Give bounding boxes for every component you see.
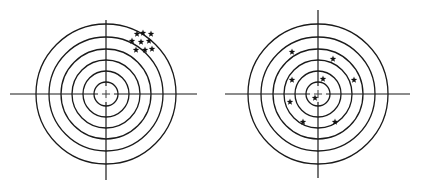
shot-star-icon [149, 46, 155, 52]
targets-diagram [0, 0, 421, 186]
shot-star-icon [351, 77, 357, 83]
shot-star-icon [320, 76, 326, 82]
shot-star-icon [146, 38, 152, 44]
shot-star-icon [287, 99, 293, 105]
shot-star-icon [134, 31, 140, 37]
shot-star-icon [138, 39, 144, 45]
shot-star-icon [289, 49, 295, 55]
left-target [10, 20, 197, 180]
right-target [225, 10, 410, 178]
figure [0, 0, 421, 186]
shot-star-icon [289, 77, 295, 83]
shot-star-icon [330, 56, 336, 62]
shot-star-icon [148, 31, 154, 37]
